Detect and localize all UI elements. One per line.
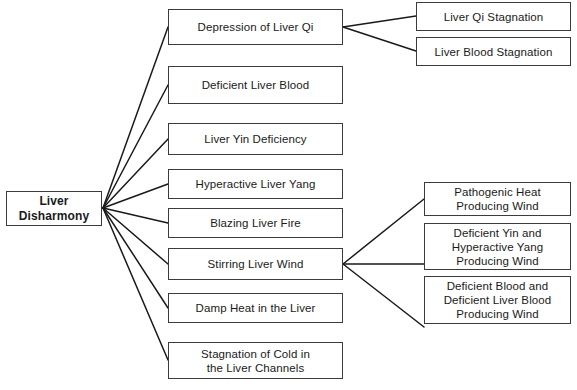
edge-root-to-l1-2: [103, 139, 168, 208]
node-damp-heat-in-the-liver[interactable]: Damp Heat in the Liver: [168, 293, 343, 323]
node-stagnation-of-cold-in-the-liver-channels-label: Stagnation of Cold in the Liver Channels: [201, 347, 310, 375]
edge-root-to-l1-6: [103, 208, 168, 308]
node-root-label: Liver Disharmony: [19, 194, 89, 224]
node-liver-blood-stagnation[interactable]: Liver Blood Stagnation: [416, 37, 571, 66]
node-depression-of-liver-qi-label: Depression of Liver Qi: [198, 20, 314, 34]
edge-l1-0-to-l2-1: [343, 27, 416, 51]
node-damp-heat-in-the-liver-label: Damp Heat in the Liver: [196, 301, 316, 315]
node-deficient-liver-blood[interactable]: Deficient Liver Blood: [168, 66, 343, 104]
edge-root-to-l1-5: [103, 208, 168, 264]
node-liver-qi-stagnation-label: Liver Qi Stagnation: [444, 10, 544, 24]
node-deficient-blood-deficient-liver-blood-producing-wind-label: Deficient Blood and Deficient Liver Bloo…: [444, 279, 552, 321]
node-blazing-liver-fire-label: Blazing Liver Fire: [210, 216, 301, 230]
diagram-canvas: Liver Disharmony Depression of Liver Qi …: [0, 0, 577, 390]
edge-l1-5-to-l2-2: [343, 199, 424, 264]
node-root[interactable]: Liver Disharmony: [6, 191, 102, 226]
node-stirring-liver-wind[interactable]: Stirring Liver Wind: [168, 248, 343, 280]
node-deficient-liver-blood-label: Deficient Liver Blood: [202, 78, 310, 92]
edge-root-to-l1-0: [103, 27, 168, 208]
node-pathogenic-heat-producing-wind[interactable]: Pathogenic Heat Producing Wind: [424, 182, 571, 216]
node-liver-blood-stagnation-label: Liver Blood Stagnation: [435, 45, 553, 59]
node-deficient-yin-hyperactive-yang-producing-wind[interactable]: Deficient Yin and Hyperactive Yang Produ…: [424, 223, 571, 270]
edge-root-to-l1-3: [103, 184, 168, 208]
node-stagnation-of-cold-in-the-liver-channels[interactable]: Stagnation of Cold in the Liver Channels: [168, 342, 343, 379]
edge-root-to-l1-1: [103, 85, 168, 208]
node-liver-qi-stagnation[interactable]: Liver Qi Stagnation: [416, 2, 571, 31]
edge-l1-0-to-l2-0: [343, 16, 416, 27]
edge-root-to-l1-7: [103, 208, 168, 360]
node-liver-yin-deficiency[interactable]: Liver Yin Deficiency: [168, 123, 343, 155]
node-deficient-blood-deficient-liver-blood-producing-wind[interactable]: Deficient Blood and Deficient Liver Bloo…: [424, 276, 571, 324]
node-pathogenic-heat-producing-wind-label: Pathogenic Heat Producing Wind: [454, 185, 541, 213]
edge-root-to-l1-4: [103, 208, 168, 223]
node-hyperactive-liver-yang[interactable]: Hyperactive Liver Yang: [168, 169, 343, 199]
node-liver-yin-deficiency-label: Liver Yin Deficiency: [204, 132, 306, 146]
node-blazing-liver-fire[interactable]: Blazing Liver Fire: [168, 208, 343, 238]
edge-l1-5-to-l2-4: [343, 264, 424, 327]
node-hyperactive-liver-yang-label: Hyperactive Liver Yang: [195, 177, 315, 191]
node-depression-of-liver-qi[interactable]: Depression of Liver Qi: [168, 9, 343, 45]
node-deficient-yin-hyperactive-yang-producing-wind-label: Deficient Yin and Hyperactive Yang Produ…: [452, 226, 543, 268]
node-stirring-liver-wind-label: Stirring Liver Wind: [208, 257, 304, 271]
